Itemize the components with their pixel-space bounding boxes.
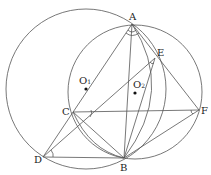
point-label-b: B: [120, 163, 127, 173]
center-label-o1-sub: 1: [87, 78, 91, 85]
segment-cb: [73, 112, 124, 158]
point-label-d: D: [34, 155, 42, 165]
angle-mark-f: [191, 110, 193, 114]
segment-bf: [124, 110, 199, 158]
point-label-a: A: [129, 12, 136, 22]
segment-ab: [124, 24, 132, 158]
center-o2-dot: [133, 91, 136, 94]
center-label-o2-sub: 2: [141, 82, 145, 89]
angle-mark-a-outer: [126, 33, 139, 36]
center-o1-dot: [84, 87, 87, 90]
angle-mark-d: [51, 150, 53, 157]
segment-eb: [124, 58, 155, 158]
center-label-o2-main: O: [133, 79, 141, 90]
geometry-diagram: A E F C D B O1 O2: [0, 0, 211, 175]
angle-mark-c: [90, 110, 92, 117]
point-label-f: F: [201, 106, 208, 116]
point-label-c: C: [62, 107, 70, 117]
point-label-e: E: [157, 48, 164, 58]
diagram-canvas: [0, 0, 211, 175]
center-label-o1-main: O: [79, 75, 87, 86]
segment-db: [43, 157, 124, 158]
center-label-o1: O1: [79, 76, 91, 86]
center-label-o2: O2: [133, 80, 145, 90]
